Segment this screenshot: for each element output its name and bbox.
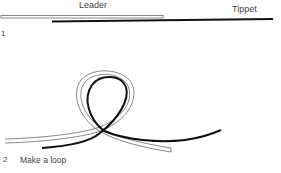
step1-tippet-line	[52, 19, 273, 22]
step1-leader-line	[1, 16, 163, 19]
step2-tippet-loop	[42, 77, 221, 148]
step-2-caption: Make a loop	[20, 155, 66, 165]
step-1-number: 1	[1, 29, 5, 38]
knot-illustration	[0, 0, 281, 173]
step-2-number: 2	[3, 155, 7, 164]
